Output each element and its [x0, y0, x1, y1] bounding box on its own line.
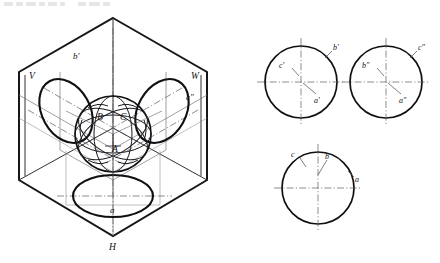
side-view-label-a-double-prime: a″: [399, 96, 407, 105]
front-view-label-b-prime: b': [333, 43, 339, 52]
side-view-leader-b: [377, 68, 384, 76]
front-view-circle: b' c' a': [257, 38, 345, 126]
label-plane-w: W: [191, 71, 200, 81]
label-c-double-prime-box: c″: [186, 92, 194, 102]
label-point-a: A: [111, 144, 118, 154]
front-view-leader-a: [303, 83, 316, 94]
front-view-leader-c: [292, 68, 299, 76]
front-view-label-a-prime: a': [314, 96, 320, 105]
top-view-label-a: a: [355, 175, 359, 184]
left-projection-box: V W H b' c″ a B C A: [19, 18, 207, 252]
label-a-box: a: [110, 205, 115, 215]
label-point-c: C: [120, 112, 127, 122]
side-view-leader-a: [388, 83, 401, 94]
side-view-leader-c: [410, 51, 417, 58]
label-plane-v: V: [29, 71, 36, 81]
front-view-label-c-prime: c': [279, 61, 285, 70]
side-view-label-b-double-prime: b″: [362, 61, 370, 70]
label-plane-h: H: [108, 242, 117, 252]
side-view-circle: c″ b″ a″: [342, 38, 430, 126]
top-view-label-c: c: [291, 150, 295, 159]
figure-root: V W H b' c″ a B C A b' c': [0, 0, 440, 263]
top-view-leader-b: [318, 160, 327, 175]
label-b-prime-box: b': [73, 51, 81, 61]
top-view-circle: c b a: [274, 144, 362, 232]
side-view-label-c-double-prime: c″: [418, 43, 426, 52]
top-view-leader-c: [300, 158, 306, 167]
top-view-label-b: b: [325, 152, 329, 161]
label-point-b: B: [97, 112, 103, 122]
front-view-leader-b: [325, 51, 332, 58]
technical-drawing-canvas: V W H b' c″ a B C A b' c': [0, 0, 440, 263]
